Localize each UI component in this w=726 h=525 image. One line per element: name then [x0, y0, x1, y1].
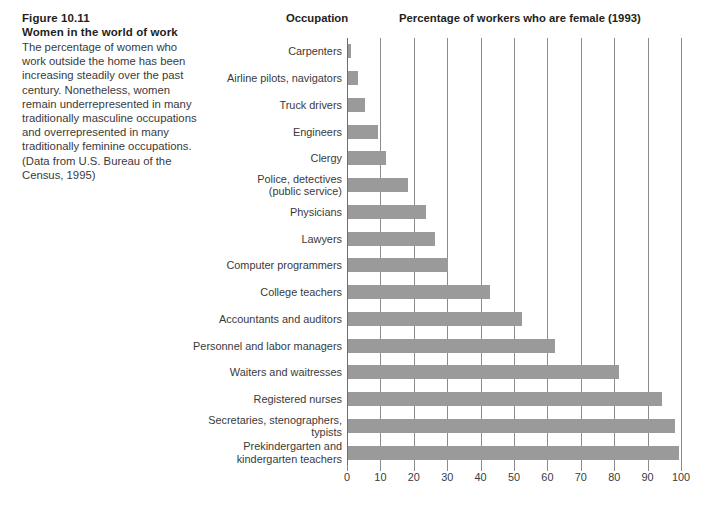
category-label: Computer programmers — [122, 259, 342, 271]
occupation-column-header: Occupation — [286, 12, 348, 24]
category-label: Registered nurses — [122, 393, 342, 405]
category-label: College teachers — [122, 286, 342, 298]
bar — [348, 419, 675, 433]
category-label: Accountants and auditors — [122, 313, 342, 325]
x-tick-label-10: 10 — [374, 471, 386, 483]
x-tick-label-60: 60 — [541, 471, 553, 483]
x-axis-tick-labels: 0102030405060708090100 — [347, 471, 681, 491]
bar — [348, 44, 351, 58]
bar — [348, 178, 408, 192]
category-label: Personnel and labor managers — [122, 340, 342, 352]
category-label: Clergy — [122, 152, 342, 164]
x-tick-label-50: 50 — [508, 471, 520, 483]
x-tick-label-100: 100 — [672, 471, 690, 483]
bar — [348, 98, 365, 112]
category-label-list: CarpentersAirline pilots, navigatorsTruc… — [117, 38, 342, 466]
bar-chart: Occupation Percentage of workers who are… — [0, 0, 726, 525]
plot-area — [347, 38, 681, 466]
category-label: Engineers — [122, 126, 342, 138]
category-label: Police, detectives (public service) — [122, 173, 342, 197]
percentage-column-header: Percentage of workers who are female (19… — [399, 12, 641, 24]
bar — [348, 71, 358, 85]
x-tick-label-20: 20 — [408, 471, 420, 483]
x-tick-label-90: 90 — [642, 471, 654, 483]
x-tick-label-30: 30 — [441, 471, 453, 483]
category-label: Truck drivers — [122, 99, 342, 111]
bar — [348, 285, 490, 299]
category-label: Secretaries, stenographers, typists — [122, 414, 342, 438]
bar — [348, 339, 555, 353]
category-label: Lawyers — [122, 233, 342, 245]
category-label: Waiters and waitresses — [122, 366, 342, 378]
category-label: Airline pilots, navigators — [122, 72, 342, 84]
bar — [348, 125, 378, 139]
bar — [348, 258, 448, 272]
bar — [348, 392, 662, 406]
bar — [348, 205, 426, 219]
bar — [348, 232, 435, 246]
x-tick-label-0: 0 — [344, 471, 350, 483]
x-tick-label-80: 80 — [608, 471, 620, 483]
bar — [348, 151, 386, 165]
category-label: Carpenters — [122, 45, 342, 57]
x-tick-label-70: 70 — [575, 471, 587, 483]
x-tick-label-40: 40 — [475, 471, 487, 483]
bar — [348, 312, 522, 326]
bar — [348, 446, 679, 460]
category-label: Physicians — [122, 206, 342, 218]
gridline-100 — [681, 38, 682, 466]
bar — [348, 365, 619, 379]
category-label: Prekindergarten and kindergarten teacher… — [122, 440, 342, 464]
